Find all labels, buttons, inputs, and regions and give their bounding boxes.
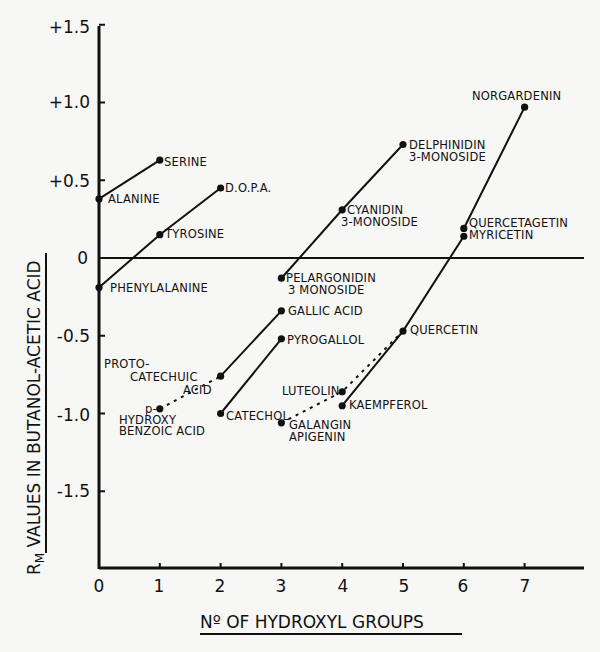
x-tick-label: 1 <box>154 576 165 596</box>
label-pelargonidin: 3 MONOSIDE <box>288 283 364 297</box>
data-point <box>399 327 406 334</box>
y-tick-label: -1.0 <box>57 405 90 425</box>
data-point <box>156 405 163 412</box>
svg-text:RM VALUES IN BUTANOL-ACETIC A: RM VALUES IN BUTANOL-ACETIC ACID <box>24 260 47 575</box>
data-point <box>521 104 528 111</box>
data-point <box>278 307 285 314</box>
rm-values-chart: +1.5 +1.0 +0.5 0 -0.5 -1.0 -1.5 0 1 2 3 … <box>0 0 600 652</box>
label-dopa: D.O.P.A. <box>225 181 271 195</box>
y-tick-label: -0.5 <box>57 326 90 346</box>
data-point <box>278 275 285 282</box>
data-point <box>339 206 346 213</box>
label-luteolin: LUTEOLIN <box>282 384 340 398</box>
label-delphinidin: 3-MONOSIDE <box>409 150 486 164</box>
label-tyrosine: TYROSINE <box>164 227 224 241</box>
label-p-hydroxy: BENZOIC ACID <box>119 424 205 438</box>
label-phenylalanine: PHENYLALANINE <box>110 281 208 295</box>
x-tick-label: 5 <box>399 576 410 596</box>
data-point <box>95 195 102 202</box>
y-tick-label: +0.5 <box>49 171 90 191</box>
data-point <box>156 231 163 238</box>
axes <box>99 26 584 569</box>
label-myricetin: MYRICETIN <box>469 228 533 242</box>
label-catechol: CATECHOL <box>226 409 289 423</box>
data-point <box>95 284 102 291</box>
y-axis-title-r: R <box>24 563 44 575</box>
label-norgardenin: NORGARDENIN <box>472 89 561 103</box>
data-point <box>460 233 467 240</box>
y-tick-label: +1.0 <box>49 92 90 112</box>
x-tick-label: 0 <box>94 576 105 596</box>
x-tick-label: 3 <box>276 576 287 596</box>
data-point <box>156 156 163 163</box>
label-apigenin: APIGENIN <box>289 430 346 444</box>
y-tick-label: 0 <box>77 248 88 268</box>
y-axis-title-rest: VALUES IN BUTANOL-ACETIC ACID <box>24 260 44 552</box>
x-tick-label: 4 <box>338 576 349 596</box>
label-alanine: ALANINE <box>108 192 160 206</box>
data-point <box>399 141 406 148</box>
series-line <box>221 311 282 376</box>
y-tick-label: +1.5 <box>49 17 90 37</box>
series-line <box>221 339 282 414</box>
label-serine: SERINE <box>164 155 207 169</box>
label-gallic-acid: GALLIC ACID <box>288 304 363 318</box>
series-line <box>342 236 464 405</box>
label-cyanidin: 3-MONOSIDE <box>341 215 418 229</box>
point-labels: ALANINE SERINE PHENYLALANINE TYROSINE D.… <box>104 89 568 444</box>
data-point <box>217 410 224 417</box>
label-protocatechuic: PROTO- <box>104 357 150 371</box>
data-point <box>278 335 285 342</box>
y-axis-title-sub: M <box>33 553 47 563</box>
label-pyrogallol: PYROGALLOL <box>287 333 365 347</box>
x-tick-label: 7 <box>520 576 531 596</box>
label-quercetin: QUERCETIN <box>410 323 478 337</box>
label-kaempferol: KAEMPFEROL <box>349 398 428 412</box>
x-axis-title: Nº OF HYDROXYL GROUPS <box>200 612 424 632</box>
data-point <box>217 184 224 191</box>
y-tick-label: -1.5 <box>57 481 90 501</box>
x-tick-label: 2 <box>215 576 226 596</box>
data-point <box>217 373 224 380</box>
label-protocatechuic: ACID <box>183 383 212 397</box>
x-tick-label: 6 <box>458 576 469 596</box>
y-axis-title: RM VALUES IN BUTANOL-ACETIC ACID <box>24 253 47 575</box>
data-point <box>339 402 346 409</box>
series-line <box>464 107 525 228</box>
data-point <box>339 388 346 395</box>
data-point <box>460 225 467 232</box>
label-protocatechuic: CATECHUIC <box>130 370 198 384</box>
